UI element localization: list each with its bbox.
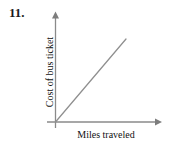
x-axis-label: Miles traveled <box>58 128 154 141</box>
data-line-series-1 <box>56 39 127 122</box>
plot-area <box>0 0 170 143</box>
y-axis-label: Cost of bus ticket <box>43 26 57 118</box>
y-axis-arrowhead <box>52 12 59 19</box>
figure-container: 11. Cost of bus ticket Miles traveled <box>0 0 170 143</box>
x-axis-arrowhead <box>155 118 162 125</box>
